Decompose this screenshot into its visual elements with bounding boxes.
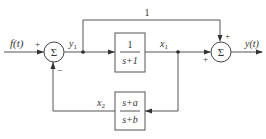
output-arrow-icon [256, 50, 263, 55]
output-label: y(t) [244, 38, 260, 50]
sum1-minus-sign: − [57, 65, 63, 76]
x1-label: x1 [159, 38, 168, 51]
forward-transfer-block: 1 s+1 [115, 33, 145, 72]
sum1-plus-sign: + [35, 39, 40, 49]
forward-denominator: s+1 [122, 55, 138, 66]
feedback-line-right [145, 52, 178, 111]
feedforward-gain-label: 1 [145, 7, 150, 18]
feedback-transfer-block: s+a s+b [115, 92, 145, 130]
forward-block-arrow-icon [108, 50, 115, 55]
x2-label: x2 [96, 97, 105, 110]
summing-junction-2: Σ [211, 42, 231, 62]
sigma-icon: Σ [51, 46, 57, 58]
feedforward-arrow-icon [218, 35, 223, 42]
input-label: f(t) [10, 37, 24, 50]
y1-label: y1 [68, 38, 77, 51]
feedforward-line [83, 20, 220, 52]
sum2-left-plus-sign: + [203, 54, 208, 64]
feedback-numerator: s+a [122, 97, 138, 108]
feedback-block-arrow-icon [145, 109, 152, 114]
sigma-icon: Σ [218, 46, 224, 58]
sum2-top-plus-sign: + [225, 31, 230, 41]
summing-junction-1: Σ [44, 42, 64, 62]
feedback-arrow-icon [51, 62, 56, 69]
input-arrow-icon [37, 50, 44, 55]
block-diagram: f(t) + Σ − y1 1 + 1 s+1 x1 + Σ y(t) s+a [0, 0, 266, 139]
forward-numerator: 1 [128, 39, 133, 50]
feedback-denominator: s+b [122, 114, 138, 125]
